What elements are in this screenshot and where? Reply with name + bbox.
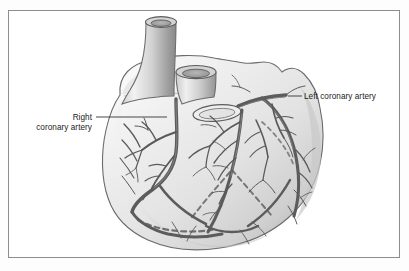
pulmonary-lumen [183, 69, 210, 77]
heart-coronary-artery-illustration: Left coronary artery Right coronary arte… [0, 0, 409, 271]
label-right-coronary-artery-line1: Right [73, 113, 93, 122]
aorta-lumen [151, 20, 171, 26]
label-right-coronary-artery-line2: coronary artery [36, 123, 93, 132]
label-left-coronary-artery-text: Left coronary artery [304, 92, 377, 101]
figure-container: Left coronary artery Right coronary arte… [0, 0, 409, 271]
